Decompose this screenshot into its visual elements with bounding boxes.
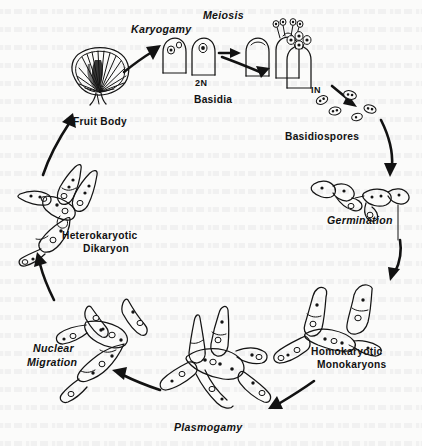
plasmogamy-illustration xyxy=(160,306,270,408)
arrow-fruitbody-to-karyogamy xyxy=(124,45,161,72)
arrow-to-plasmogamy xyxy=(268,381,314,409)
diagram-canvas: Fruit Body Karyogamy Meiosis xyxy=(0,0,422,446)
label-germination: Germination xyxy=(327,214,393,226)
label-dikaryon: Dikaryon xyxy=(83,243,129,254)
arrow-to-dikaryon xyxy=(34,252,54,300)
label-basidiospores: Basidiospores xyxy=(285,131,359,142)
label-monokaryons: Monokaryons xyxy=(317,359,387,370)
label-basidia: Basidia xyxy=(194,94,232,105)
label-meiosis: Meiosis xyxy=(203,9,244,21)
label-heterokaryotic: Heterokaryotic xyxy=(62,230,138,241)
label-homokaryotic: Homokaryotic xyxy=(311,346,383,357)
arrow-to-nuclear-migration xyxy=(112,367,160,390)
label-karyogamy: Karyogamy xyxy=(131,23,192,35)
fruit-body-illustration xyxy=(72,48,129,106)
basidiospores-illustration xyxy=(315,89,377,122)
label-2n-diploid: 2N xyxy=(195,78,207,88)
arrow-to-fruit-body xyxy=(43,113,76,175)
basidium-two-nuclei xyxy=(163,38,186,73)
basidium-fused-nucleus xyxy=(192,38,215,75)
arrow-to-germination xyxy=(381,120,397,177)
label-nuclear-migration-line2: Migration xyxy=(27,356,78,368)
arrow-to-monokaryons xyxy=(388,240,401,281)
label-1n-haploid: IN xyxy=(311,85,321,95)
label-nuclear-migration-line1: Nuclear xyxy=(33,342,75,354)
label-fruit-body: Fruit Body xyxy=(73,116,127,127)
label-plasmogamy: Plasmogamy xyxy=(174,421,243,433)
life-cycle-figure: Fruit Body Karyogamy Meiosis xyxy=(0,0,422,446)
